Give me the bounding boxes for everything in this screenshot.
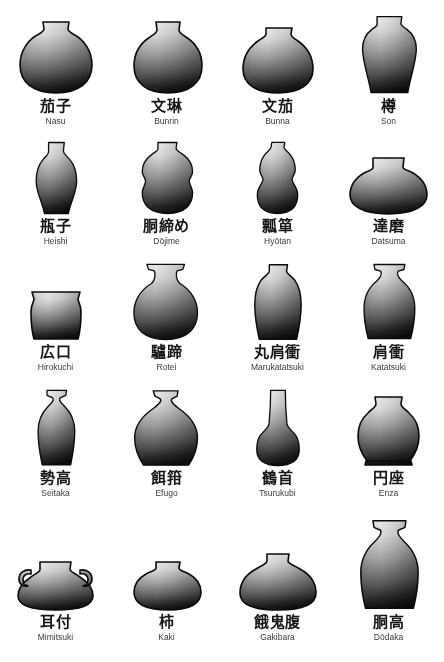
vessel-name-kanji: 胴締め bbox=[143, 218, 190, 235]
vessel-illustration-enza bbox=[333, 388, 444, 468]
vessel-name-kanji: 餌箝 bbox=[151, 470, 182, 487]
vessel-name-romaji: Rotei bbox=[157, 362, 177, 373]
vessel-illustration-dojime bbox=[111, 140, 222, 216]
vessel-name-kanji: 餓鬼腹 bbox=[254, 614, 301, 631]
vessel-name-kanji: 広口 bbox=[40, 344, 71, 361]
vessel-name-romaji: Marukatatsuki bbox=[251, 362, 304, 373]
chaire-cell-kaki: 柿Kaki bbox=[111, 518, 222, 643]
vessel-illustration-kaki bbox=[111, 518, 222, 612]
vessel-name-romaji: Dōjime bbox=[153, 236, 179, 247]
vessel-illustration-bunrin bbox=[111, 14, 222, 96]
vessel-illustration-heishi bbox=[0, 140, 111, 216]
vessel-name-kanji: 肩衝 bbox=[373, 344, 404, 361]
vessel-name-romaji: Nasu bbox=[46, 116, 66, 127]
vessel-illustration-mimitsuki bbox=[0, 518, 111, 612]
chaire-cell-hirokuchi: 広口Hirokuchi bbox=[0, 262, 111, 373]
vessel-illustration-nasu bbox=[0, 14, 111, 96]
vessel-name-kanji: 瓶子 bbox=[40, 218, 71, 235]
vessel-name-romaji: Datsuma bbox=[371, 236, 405, 247]
chaire-cell-tsurukubi: 鶴首Tsurukubi bbox=[222, 388, 333, 499]
chaire-cell-nasu: 茄子Nasu bbox=[0, 14, 111, 127]
chaire-cell-dodaka: 胴高Dōdaka bbox=[333, 518, 444, 643]
vessel-name-romaji: Dōdaka bbox=[374, 632, 403, 643]
vessel-name-romaji: Heishi bbox=[44, 236, 68, 247]
vessel-name-romaji: Enza bbox=[379, 488, 398, 499]
chaire-cell-gakibara: 餓鬼腹Gakibara bbox=[222, 518, 333, 643]
vessel-name-kanji: 茄子 bbox=[40, 98, 71, 115]
vessel-name-romaji: Hyōtan bbox=[264, 236, 291, 247]
vessel-name-kanji: 文琳 bbox=[151, 98, 182, 115]
chaire-cell-datsuma: 達磨Datsuma bbox=[333, 140, 444, 247]
vessel-name-kanji: 勢高 bbox=[40, 470, 71, 487]
chaire-cell-seitaka: 勢高Seitaka bbox=[0, 388, 111, 499]
vessel-name-romaji: Son bbox=[381, 116, 396, 127]
chaire-cell-son: 樽Son bbox=[333, 14, 444, 127]
chaire-cell-marukatatsuki: 丸肩衝Marukatatsuki bbox=[222, 262, 333, 373]
vessel-illustration-son bbox=[333, 14, 444, 96]
vessel-illustration-bunna bbox=[222, 14, 333, 96]
chaire-cell-dojime: 胴締めDōjime bbox=[111, 140, 222, 247]
vessel-name-romaji: Tsurukubi bbox=[259, 488, 295, 499]
vessel-name-romaji: Seitaka bbox=[41, 488, 69, 499]
vessel-illustration-marukatatsuki bbox=[222, 262, 333, 342]
vessel-name-romaji: Katatsuki bbox=[371, 362, 406, 373]
chaire-cell-katatsuki: 肩衝Katatsuki bbox=[333, 262, 444, 373]
chaire-cell-mimitsuki: 耳付Mimitsuki bbox=[0, 518, 111, 643]
vessel-illustration-katatsuki bbox=[333, 262, 444, 342]
chaire-cell-heishi: 瓶子Heishi bbox=[0, 140, 111, 247]
vessel-name-kanji: 円座 bbox=[373, 470, 404, 487]
vessel-name-romaji: Mimitsuki bbox=[38, 632, 73, 643]
vessel-illustration-dodaka bbox=[333, 518, 444, 612]
chaire-cell-bunna: 文茄Bunna bbox=[222, 14, 333, 127]
vessel-name-kanji: 丸肩衝 bbox=[254, 344, 301, 361]
vessel-name-romaji: Bunna bbox=[265, 116, 290, 127]
vessel-illustration-seitaka bbox=[0, 388, 111, 468]
vessel-illustration-gakibara bbox=[222, 518, 333, 612]
vessel-name-kanji: 驢蹄 bbox=[151, 344, 182, 361]
vessel-name-romaji: Efugo bbox=[155, 488, 177, 499]
vessel-illustration-datsuma bbox=[333, 140, 444, 216]
vessel-name-romaji: Bunrin bbox=[154, 116, 179, 127]
vessel-name-kanji: 柿 bbox=[159, 614, 175, 631]
vessel-name-kanji: 樽 bbox=[381, 98, 397, 115]
vessel-illustration-hyotan bbox=[222, 140, 333, 216]
chaire-cell-enza: 円座Enza bbox=[333, 388, 444, 499]
vessel-illustration-rotei bbox=[111, 262, 222, 342]
chaire-cell-hyotan: 瓢箪Hyōtan bbox=[222, 140, 333, 247]
vessel-illustration-efugo bbox=[111, 388, 222, 468]
vessel-name-kanji: 瓢箪 bbox=[262, 218, 293, 235]
vessel-name-kanji: 鶴首 bbox=[262, 470, 293, 487]
chaire-cell-efugo: 餌箝Efugo bbox=[111, 388, 222, 499]
vessel-name-romaji: Kaki bbox=[158, 632, 175, 643]
vessel-name-romaji: Hirokuchi bbox=[38, 362, 73, 373]
vessel-name-kanji: 達磨 bbox=[373, 218, 404, 235]
vessel-name-kanji: 文茄 bbox=[262, 98, 293, 115]
vessel-name-romaji: Gakibara bbox=[260, 632, 295, 643]
vessel-name-kanji: 胴高 bbox=[373, 614, 404, 631]
chaire-cell-bunrin: 文琳Bunrin bbox=[111, 14, 222, 127]
chaire-cell-rotei: 驢蹄Rotei bbox=[111, 262, 222, 373]
vessel-name-kanji: 耳付 bbox=[40, 614, 71, 631]
vessel-illustration-hirokuchi bbox=[0, 262, 111, 342]
vessel-illustration-tsurukubi bbox=[222, 388, 333, 468]
chaire-shape-chart: 茄子Nasu文琳Bunrin文茄Bunna樽Son瓶子Heishi胴締めDōji… bbox=[0, 0, 444, 662]
